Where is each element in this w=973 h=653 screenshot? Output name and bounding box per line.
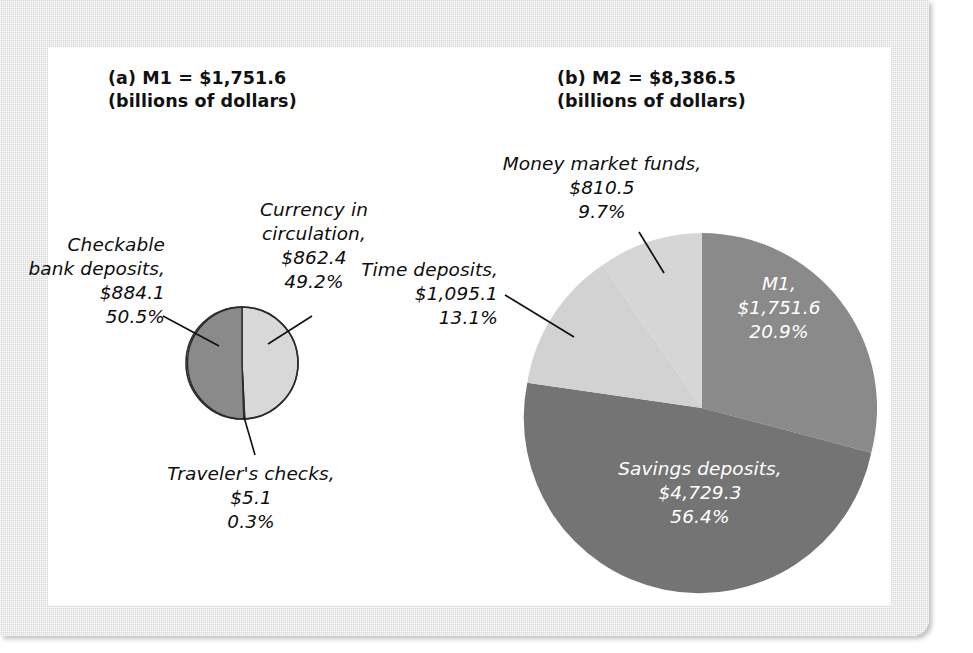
leader-line-travelers [244,417,255,455]
slice-checkable-bank-deposits [187,307,243,419]
label-time-deposits: Time deposits, $1,095.1 13.1% [330,258,498,330]
label-m1-slice: M1, $1,751.6 20.9% [712,272,846,344]
label-money-market-funds: Money market funds, $810.5 9.7% [474,152,730,224]
slice-currency-in-circulation [242,307,298,419]
label-travelers-checks: Traveler's checks, $5.1 0.3% [148,462,354,534]
label-checkable-bank-deposits: Checkable bank deposits, $884.1 50.5% [10,233,165,329]
pie-chart-m1 [163,307,312,455]
label-savings-deposits: Savings deposits, $4,729.3 56.4% [582,457,818,529]
